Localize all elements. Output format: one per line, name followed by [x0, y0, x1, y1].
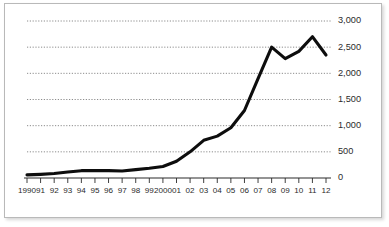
x-tick-label: 97: [118, 186, 128, 195]
x-tick-label: 2000: [154, 186, 173, 195]
x-tick-label: 01: [172, 186, 182, 195]
y-tick-label: 500: [338, 146, 353, 156]
x-tick-label: 02: [186, 186, 196, 195]
line-chart: 05001,0001,5002,0002,5003,000 1990919293…: [5, 4, 381, 217]
x-tick-label: 1990: [18, 186, 37, 195]
y-axis-labels: 05001,0001,5002,0002,5003,000: [338, 15, 361, 182]
x-tick-label: 93: [63, 186, 73, 195]
chart-frame: 05001,0001,5002,0002,5003,000 1990919293…: [4, 3, 382, 218]
y-tick-label: 0: [338, 172, 343, 182]
y-tick-label: 2,000: [338, 68, 361, 78]
x-tick-label: 08: [267, 186, 277, 195]
x-tick-label: 95: [90, 186, 100, 195]
data-series-line: [27, 37, 326, 175]
y-tick-label: 1,500: [338, 94, 361, 104]
x-tick-label: 96: [104, 186, 114, 195]
x-tick-label: 94: [77, 186, 87, 195]
x-tick-label: 03: [199, 186, 209, 195]
x-tick-label: 05: [226, 186, 236, 195]
y-tick-label: 1,000: [338, 120, 361, 130]
x-tick-label: 92: [50, 186, 60, 195]
x-tick-label: 06: [240, 186, 250, 195]
x-tick-label: 09: [281, 186, 291, 195]
grid-lines: [27, 21, 331, 152]
x-axis: [24, 178, 331, 183]
y-tick-label: 2,500: [338, 42, 361, 52]
x-tick-label: 10: [294, 186, 304, 195]
x-tick-label: 12: [321, 186, 331, 195]
x-tick-label: 98: [131, 186, 141, 195]
x-tick-label: 11: [308, 186, 317, 195]
x-tick-label: 04: [213, 186, 223, 195]
x-axis-labels: 1990919293949596979899200001020304050607…: [18, 186, 331, 195]
x-tick-label: 91: [36, 186, 46, 195]
x-tick-label: 07: [254, 186, 264, 195]
x-tick-label: 99: [145, 186, 155, 195]
y-tick-label: 3,000: [338, 15, 361, 25]
